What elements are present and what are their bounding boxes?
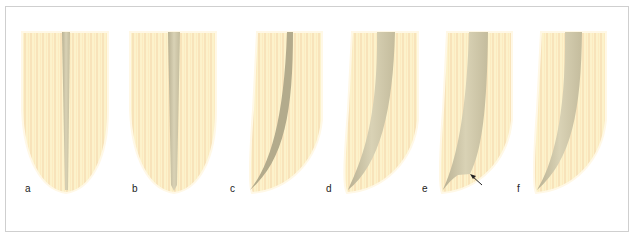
panel-label-d: d — [326, 184, 332, 194]
panel-f-tooth — [534, 32, 606, 193]
panel-label-c: c — [230, 184, 235, 194]
panel-e-tooth — [440, 32, 512, 193]
panel-label-a: a — [25, 184, 31, 194]
root-canal-illustration — [0, 0, 637, 240]
panel-b-tooth — [130, 32, 216, 193]
panel-d-tooth — [344, 32, 418, 193]
panel-c-tooth — [250, 32, 322, 193]
panel-label-b: b — [132, 184, 138, 194]
panel-a-tooth — [22, 32, 108, 193]
panel-label-f: f — [517, 184, 520, 194]
panel-label-e: e — [422, 184, 428, 194]
